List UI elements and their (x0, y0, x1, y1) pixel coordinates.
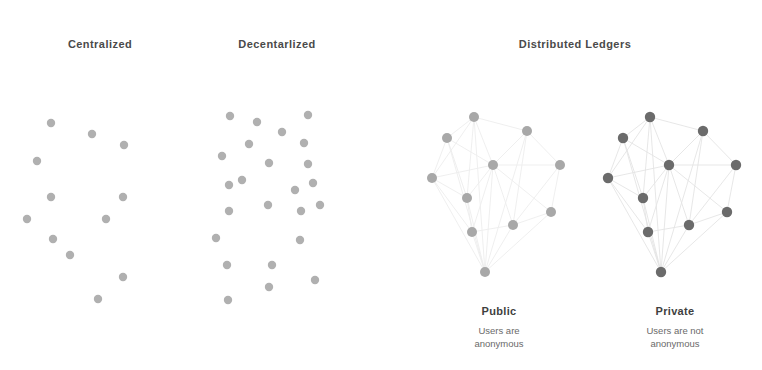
network-edge (669, 165, 727, 212)
network-node (296, 236, 304, 244)
network-node (656, 267, 666, 277)
sub-caption-private: Users are not anonymous (646, 325, 703, 350)
network-edge (472, 232, 485, 272)
network-edge (513, 131, 527, 225)
network-node (722, 207, 732, 217)
network-edge (703, 131, 736, 165)
network-edge (467, 117, 474, 198)
network-edge (643, 198, 648, 232)
network-edge (608, 165, 669, 178)
private-ledger-network-nodes (603, 112, 741, 277)
network-edge (432, 178, 485, 272)
network-node (238, 176, 246, 184)
network-node (47, 119, 55, 127)
network-edge (650, 117, 703, 131)
network-node (225, 207, 233, 215)
network-node (427, 173, 437, 183)
network-node (664, 160, 674, 170)
network-edge (650, 117, 661, 272)
network-edge (661, 225, 689, 272)
network-edge (623, 117, 650, 138)
network-node (225, 181, 233, 189)
centralized-network-nodes (23, 119, 128, 303)
network-node (212, 234, 220, 242)
network-edge (608, 178, 643, 198)
network-edge (650, 117, 669, 165)
network-node (94, 295, 102, 303)
network-node (508, 220, 518, 230)
network-edge (648, 232, 661, 272)
network-edge (551, 165, 560, 212)
network-edge (643, 165, 669, 198)
private-ledger-network-edges (608, 117, 736, 272)
network-edge (493, 165, 513, 225)
panel-heading-distributed-ledgers: Distributed Ledgers (519, 38, 631, 50)
network-node (264, 201, 272, 209)
network-edge (689, 131, 703, 225)
network-edge (623, 138, 661, 272)
network-node (316, 201, 324, 209)
network-edge (474, 117, 527, 131)
network-edge (608, 117, 650, 178)
network-edge (432, 117, 474, 178)
network-edge (648, 225, 689, 232)
network-node (698, 126, 708, 136)
network-node (278, 128, 286, 136)
network-node (120, 141, 128, 149)
network-node (297, 207, 305, 215)
network-node (291, 186, 299, 194)
network-edge (643, 198, 661, 272)
network-edge (689, 212, 727, 225)
network-edge (485, 131, 527, 272)
network-edge (432, 138, 447, 178)
network-edge (727, 165, 736, 212)
network-node (645, 112, 655, 122)
centralized-node-cluster (23, 119, 128, 303)
network-node (638, 193, 648, 203)
network-node (480, 267, 490, 277)
public-node-cluster (427, 112, 565, 277)
network-edge (608, 138, 623, 178)
network-node (467, 227, 477, 237)
panel-heading-centralized: Centralized (68, 38, 132, 50)
network-edge (432, 178, 467, 198)
network-node (618, 133, 628, 143)
network-edge (623, 138, 669, 165)
network-node (300, 139, 308, 147)
network-edge (513, 165, 560, 225)
network-node (224, 296, 232, 304)
network-node (546, 207, 556, 217)
network-node (304, 111, 312, 119)
network-graphics-layer (0, 0, 762, 370)
network-node (555, 160, 565, 170)
network-node (488, 160, 498, 170)
network-node (223, 261, 231, 269)
network-node (442, 133, 452, 143)
network-node (311, 276, 319, 284)
sub-heading-private: Private (656, 305, 695, 317)
network-edge (447, 117, 474, 138)
network-edge (661, 165, 669, 272)
network-edge (485, 165, 493, 272)
network-edge (467, 198, 472, 232)
network-node (462, 193, 472, 203)
decentralized-network-nodes (212, 111, 324, 304)
network-node (218, 152, 226, 160)
network-edge (669, 131, 703, 165)
network-edge (467, 165, 493, 198)
decentralized-node-cluster (212, 111, 324, 304)
network-node (23, 215, 31, 223)
network-node (684, 220, 694, 230)
network-edge (467, 198, 485, 272)
network-edge (474, 117, 485, 272)
network-node (47, 193, 55, 201)
sub-heading-public: Public (482, 305, 517, 317)
network-node (102, 215, 110, 223)
network-edge (608, 178, 648, 232)
panel-heading-decentralized: Decentarlized (238, 38, 315, 50)
network-edge (689, 165, 736, 225)
network-topology-diagram: Centralized Decentarlized Distributed Le… (0, 0, 762, 370)
network-edge (447, 138, 493, 165)
network-node (66, 251, 74, 259)
public-ledger-network-nodes (427, 112, 565, 277)
